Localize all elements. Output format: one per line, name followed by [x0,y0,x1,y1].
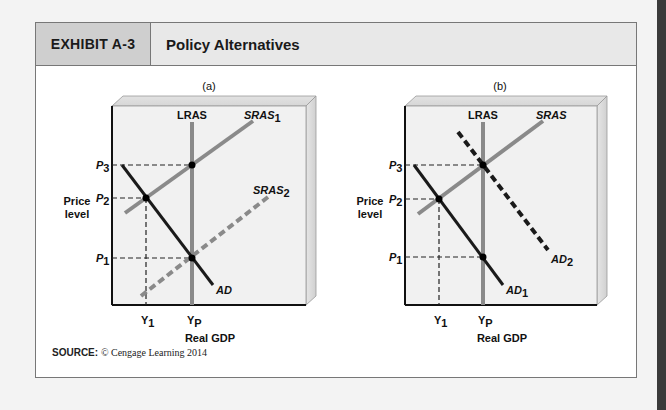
yp-label: YP [187,314,202,329]
plot-box-top-face [405,96,607,106]
y-axis-label-line2: level [65,208,89,220]
chart-panel-a: (a) LRAS SRAS1 SRAS2 AD P3 P [64,80,316,344]
y-axis-label-line1: Price [64,195,91,207]
y-axis-label-line1: Price [357,195,384,207]
p1-label: P1 [389,251,402,266]
equilibrium-point [436,196,443,203]
x-axis-label: Real GDP [185,332,235,344]
plot-area [112,106,306,305]
equilibrium-point [480,254,487,261]
source-note: SOURCE: © Cengage Learning 2014 [52,347,207,358]
y-axis-label-line2: level [358,208,382,220]
p3-label: P3 [96,159,109,174]
y1-label: Y1 [141,314,154,329]
lras-label: LRAS [177,109,207,121]
sras-label: SRAS [536,109,567,121]
equilibrium-point [143,195,150,202]
yp-label: YP [478,314,493,329]
equilibrium-point [480,162,487,169]
p2-label: P2 [389,193,402,208]
plot-area [405,106,597,305]
p1-label: P1 [96,252,109,267]
equilibrium-point [189,255,196,262]
chart-panel-b: (b) LRAS SRAS AD2 AD1 P3 P2 P1 Price lev… [357,80,607,344]
x-axis-label: Real GDP [477,332,527,344]
p2-label: P2 [96,192,109,207]
p3-label: P3 [389,159,402,174]
lras-label: LRAS [468,109,498,121]
plot-box-top-face [112,96,316,106]
plot-box-side-face [597,96,607,305]
panel-a-title: (a) [202,80,215,92]
source-text: © Cengage Learning 2014 [101,347,207,358]
y1-label: Y1 [434,314,447,329]
ad-label: AD [215,284,232,296]
equilibrium-point [189,162,196,169]
source-label: SOURCE: [52,347,98,358]
panel-b-title: (b) [493,80,506,92]
plot-box-side-face [306,96,316,305]
